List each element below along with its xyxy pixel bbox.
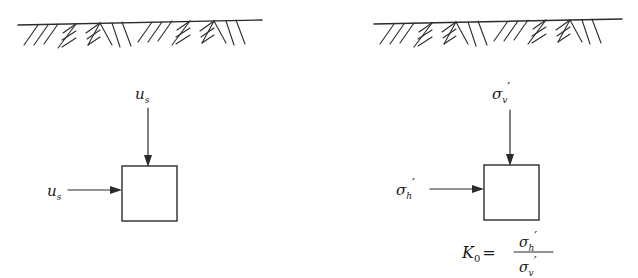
- horizontal-load-symbol-left: u: [47, 182, 57, 200]
- vertical-load-subscript-left: s: [145, 95, 150, 105]
- equation-equals-sign: =: [482, 243, 495, 262]
- vertical-load-prime-right: ′: [507, 80, 510, 95]
- equation-denominator-subscript: v: [529, 268, 534, 278]
- soil-element-square-left: [122, 166, 177, 221]
- equation-numerator-symbol: σ: [519, 234, 529, 250]
- equation-numerator-subscript: h: [529, 243, 535, 253]
- horizontal-load-subscript-left: s: [57, 192, 62, 202]
- figure-background: [0, 0, 638, 278]
- equation-denominator-prime: ′: [534, 254, 537, 269]
- soil-element-square-right: [484, 165, 539, 220]
- figure-canvas: us us σv′ σh′ K0= σh′ σv′: [0, 0, 638, 278]
- horizontal-load-subscript-right: h: [406, 191, 412, 201]
- vertical-load-subscript-right: v: [502, 95, 507, 105]
- equation-k-symbol: K: [461, 243, 475, 262]
- equation-k-subscript: 0: [474, 253, 480, 264]
- vertical-load-symbol-left: u: [135, 85, 145, 103]
- soil-stress-figure: us us σv′ σh′ K0= σh′ σv′: [0, 0, 638, 278]
- equation-numerator-prime: ′: [534, 229, 537, 244]
- equation-denominator-symbol: σ: [519, 259, 529, 275]
- horizontal-load-prime-right: ′: [412, 176, 415, 191]
